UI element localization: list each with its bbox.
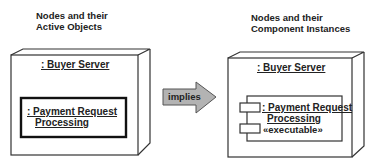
left-title-line2: Active Objects [36, 21, 108, 32]
implies-label: implies [168, 91, 201, 102]
left-active-object-label: : Payment Request Processing [27, 106, 117, 128]
left-title: Nodes and their Active Objects [36, 10, 108, 32]
right-component-label: : Payment Request Processing [262, 102, 352, 124]
right-component-label-line1: : Payment Request [262, 102, 352, 113]
right-title-line1: Nodes and their [251, 12, 350, 23]
right-component-label-line2: Processing [262, 113, 352, 124]
left-title-line1: Nodes and their [36, 10, 108, 21]
right-title-line2: Component Instances [251, 23, 350, 34]
left-object-label-line1: : Payment Request [27, 106, 117, 117]
left-node-label: : Buyer Server [41, 59, 109, 70]
right-component-stereotype: «executable» [263, 124, 323, 135]
left-object-label-line2: Processing [27, 117, 117, 128]
right-title: Nodes and their Component Instances [251, 12, 350, 34]
right-node-label: : Buyer Server [257, 62, 325, 73]
